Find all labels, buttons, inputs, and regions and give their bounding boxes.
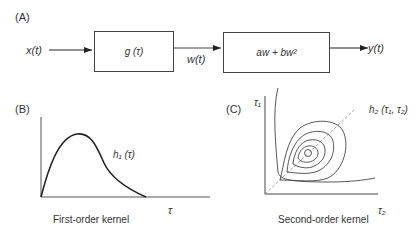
panel-c-label: (C) — [226, 103, 241, 115]
nonlinearity-label: aw + bw² — [256, 47, 296, 58]
linear-filter-label: g (τ) — [125, 46, 144, 57]
nonlinearity-block: aw + bw² — [223, 32, 330, 73]
output-signal-label: y(t) — [368, 42, 384, 54]
first-order-kernel-curve — [41, 134, 146, 197]
b-x-axis-label: τ — [168, 204, 172, 216]
first-order-caption: First-order kernel — [53, 214, 129, 225]
panel-b-label: (B) — [15, 103, 30, 115]
contour-4 — [298, 146, 318, 162]
second-order-kernel-label: h₂ (τ₁, τ₂) — [369, 104, 408, 116]
first-order-kernel-label: h₁ (τ) — [113, 149, 135, 161]
diagram-lines — [0, 0, 420, 234]
panel-a-label: (A) — [15, 11, 30, 23]
intermediate-signal-label: w(t) — [187, 53, 205, 65]
c-y-axis-label: τ₁ — [254, 97, 261, 109]
outer-contour — [275, 88, 375, 182]
second-order-caption: Second-order kernel — [278, 214, 369, 225]
c-x-axis-label: τ₂ — [378, 205, 386, 217]
linear-filter-block: g (τ) — [94, 31, 174, 72]
input-signal-label: x(t) — [26, 44, 42, 56]
contour-center — [305, 150, 312, 157]
contour-3 — [293, 140, 325, 168]
